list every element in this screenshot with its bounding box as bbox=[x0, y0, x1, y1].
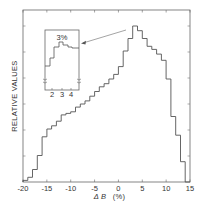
x-axis-title-unit: (%) bbox=[113, 192, 126, 201]
inset-tick-3: 3 bbox=[60, 90, 64, 99]
x-tick-label: 15 bbox=[186, 184, 194, 193]
inset-tick-4: 4 bbox=[69, 90, 73, 99]
histogram-chart: -20-15-10-5051015 3% 2 3 4 Δ B (%) RELAT… bbox=[0, 0, 202, 210]
inset-annotation-3pct: 3% bbox=[57, 33, 68, 42]
x-axis-ticks: -20-15-10-5051015 bbox=[18, 10, 195, 193]
inset-pointer-arrow bbox=[81, 30, 126, 45]
inset-magnified-peak: 3% 2 3 4 bbox=[43, 30, 81, 99]
x-tick-label: -20 bbox=[18, 184, 29, 193]
y-axis-title: RELATIVE VALUES bbox=[10, 60, 19, 131]
x-axis-title-symbol: Δ B bbox=[93, 192, 107, 201]
inset-tick-2: 2 bbox=[50, 90, 54, 99]
x-tick-label: 10 bbox=[162, 184, 170, 193]
x-tick-label: 5 bbox=[140, 184, 144, 193]
x-tick-label: -15 bbox=[41, 184, 52, 193]
x-tick-label: -10 bbox=[65, 184, 76, 193]
